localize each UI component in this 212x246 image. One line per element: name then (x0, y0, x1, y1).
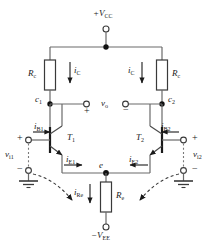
transistor-left (31, 104, 62, 173)
transistor-right (150, 104, 181, 173)
collector-resistor-right (142, 60, 168, 104)
circuit-schematic-svg (0, 0, 212, 246)
circuit-diagram: +VCC Rc iC iC Rc c1 c2 + − vo iB1 iB2 T1… (0, 0, 212, 246)
rc-right-body (157, 60, 168, 90)
left-current-path-dashed-arrow (33, 174, 72, 200)
ib2-label: iB2 (161, 122, 171, 131)
emitter-node-label: e (99, 161, 103, 170)
input-right-plus-terminal[interactable] (181, 137, 187, 143)
rc-left-label: Rc (28, 69, 36, 78)
ie1-label: iE1 (66, 155, 75, 164)
vcc-label: +VCC (93, 9, 113, 18)
ire-label: iRe (74, 188, 83, 197)
vcc-terminal-circle (103, 26, 109, 32)
input-right-plus-sign: + (192, 133, 198, 143)
vee-label: −VEE (91, 231, 110, 240)
input-right-minus-terminal[interactable] (181, 168, 187, 174)
t1-collector-lead (50, 126, 62, 134)
t1-emitter-lead-arrow (50, 146, 62, 155)
re-body (101, 182, 112, 212)
ib1-label: iB1 (34, 122, 44, 131)
ic-left-label: iC (74, 66, 81, 75)
rc-left-body (45, 60, 56, 90)
top-rail-junction-node (103, 44, 108, 49)
input-left-minus-terminal[interactable] (26, 168, 32, 174)
t2-label: T2 (136, 133, 144, 142)
output-minus-sign: − (123, 105, 129, 115)
collector-right-node-label: c2 (168, 95, 175, 104)
vee-terminal-circle (103, 224, 109, 230)
output-plus-sign: + (84, 106, 90, 116)
input-right-minus-sign: − (192, 164, 198, 174)
ic-right-label: iC (128, 66, 135, 75)
t1-label: T1 (67, 133, 75, 142)
input-left-minus-sign: − (17, 164, 23, 174)
input-left-voltage-label: vi1 (5, 150, 14, 159)
ie2-label: iE2 (129, 155, 138, 164)
supply-rail-top (50, 26, 162, 60)
input-right-voltage-label: vi2 (193, 150, 202, 159)
re-label: Re (116, 191, 124, 200)
output-voltage-label: vo (101, 99, 108, 108)
t2-emitter-lead-arrow (150, 146, 162, 155)
collector-left-node-label: c1 (35, 95, 42, 104)
input-left-plus-terminal[interactable] (26, 137, 32, 143)
right-current-path-dashed-arrow (140, 174, 179, 200)
emitter-resistor (90, 173, 112, 230)
collector-resistor-left (45, 60, 71, 104)
input-left-plus-sign: + (17, 133, 23, 143)
rc-right-label: Rc (172, 69, 180, 78)
